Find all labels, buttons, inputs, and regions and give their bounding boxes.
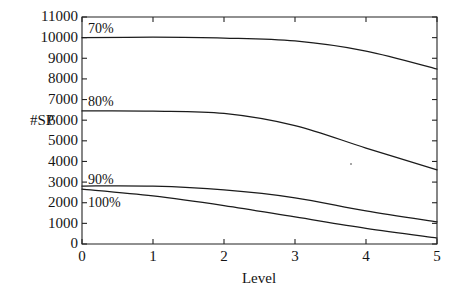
x-axis-title: Level bbox=[242, 270, 276, 286]
y-tick-label: 0 bbox=[71, 235, 79, 251]
series-label-90pct: 90% bbox=[88, 172, 114, 187]
x-tick-label: 4 bbox=[362, 248, 370, 264]
y-tick-label: 11000 bbox=[41, 8, 78, 24]
chart-figure: 0100020003000400050006000700080009000100… bbox=[0, 0, 455, 292]
y-tick-label: 1000 bbox=[48, 215, 78, 231]
y-axis-title: #SP bbox=[30, 112, 54, 128]
y-tick-label: 8000 bbox=[48, 70, 78, 86]
series-label-70pct: 70% bbox=[88, 21, 114, 36]
x-tick-label: 5 bbox=[433, 248, 441, 264]
y-tick-label: 7000 bbox=[48, 91, 78, 107]
y-tick-label: 2000 bbox=[48, 194, 78, 210]
line-chart: 0100020003000400050006000700080009000100… bbox=[0, 0, 455, 292]
x-tick-label: 3 bbox=[291, 248, 299, 264]
x-tick-label: 2 bbox=[220, 248, 228, 264]
x-tick-label: 0 bbox=[78, 248, 86, 264]
y-tick-label: 10000 bbox=[41, 29, 79, 45]
series-label-100pct: 100% bbox=[88, 195, 121, 210]
scan-speck bbox=[350, 163, 352, 165]
y-tick-label: 5000 bbox=[48, 132, 78, 148]
series-label-80pct: 80% bbox=[88, 94, 114, 109]
y-tick-label: 9000 bbox=[48, 50, 78, 66]
y-tick-label: 3000 bbox=[48, 174, 78, 190]
y-tick-label: 4000 bbox=[48, 153, 78, 169]
x-tick-label: 1 bbox=[149, 248, 157, 264]
